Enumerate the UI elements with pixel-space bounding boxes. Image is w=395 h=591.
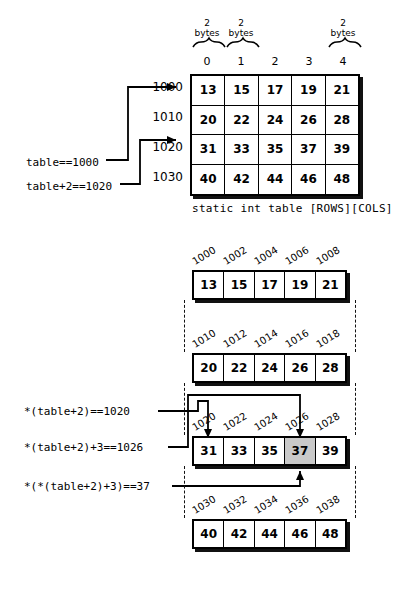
memory-address: 1010 [190,327,217,350]
grid-cell: 40 [192,165,225,195]
pointer-label-table: table==1000 [26,156,99,169]
dashed-guide-right [355,466,356,518]
grid-cell: 33 [225,135,258,165]
memory-address: 1002 [221,244,248,267]
table-row: 40 42 44 46 48 [192,165,358,195]
array-grid: 13 15 17 19 21 20 22 24 26 28 31 33 35 3… [190,74,360,196]
dashed-guide-left [184,466,185,518]
dashed-guide-left [184,383,185,435]
grid-cell: 26 [292,106,325,136]
expression-deref-table-plus-2: *(table+2)==1020 [24,405,130,418]
memory-cell: 28 [316,355,345,381]
memory-cell: 48 [316,521,345,547]
row-address-1010: 1010 [139,110,183,124]
row-address-1000: 1000 [139,80,183,94]
grid-cell: 31 [192,135,225,165]
memory-cell: 44 [255,521,285,547]
memory-address: 1008 [314,244,341,267]
memory-cell: 46 [285,521,315,547]
memory-address: 1006 [283,244,310,267]
memory-address: 1014 [252,327,279,350]
byte-label-col4: 2 bytes [321,18,365,38]
grid-cell: 20 [192,106,225,136]
byte-label-col1: 2 bytes [219,18,263,38]
grid-cell: 19 [292,76,325,106]
memory-cell: 22 [224,355,254,381]
grid-cell: 22 [225,106,258,136]
memory-address: 1020 [190,410,217,433]
grid-cell: 42 [225,165,258,195]
table-row: 31 33 35 37 39 [192,135,358,165]
memory-address: 1028 [314,410,341,433]
byte-label-col4-count: 2 [321,18,365,28]
memory-block-row0: 13 15 17 19 21 [192,270,347,300]
dashed-guide-left [184,300,185,352]
memory-block-row3: 40 42 44 46 48 [192,519,347,549]
memory-cell: 19 [285,272,315,298]
memory-cell: 21 [316,272,345,298]
memory-cell: 15 [224,272,254,298]
memory-cell: 17 [255,272,285,298]
byte-label-col1-unit: bytes [219,28,263,38]
memory-address: 1032 [221,493,248,516]
memory-cell: 26 [285,355,315,381]
grid-cell: 35 [259,135,292,165]
table-row: 13 15 17 19 21 [192,76,358,106]
grid-cell: 24 [259,106,292,136]
grid-cell: 48 [326,165,358,195]
figure-caption: static int table [ROWS][COLS] [192,202,393,215]
grid-cell: 21 [326,76,358,106]
column-index-3: 3 [292,55,326,68]
column-index-2: 2 [258,55,292,68]
dashed-guide-right [355,300,356,352]
column-index-0: 0 [190,55,224,68]
memory-address: 1038 [314,493,341,516]
expression-full-deref: *(*(table+2)+3)==37 [24,480,150,493]
memory-address: 1022 [221,410,248,433]
memory-address: 1030 [190,493,217,516]
memory-address: 1012 [221,327,248,350]
memory-address: 1000 [190,244,217,267]
byte-label-col4-unit: bytes [321,28,365,38]
memory-cell: 31 [194,438,224,464]
memory-address: 1004 [252,244,279,267]
memory-block-row1: 20 22 24 26 28 [192,353,347,383]
memory-address: 1026 [283,410,310,433]
row-address-1030: 1030 [139,170,183,184]
memory-cell: 33 [224,438,254,464]
grid-cell: 44 [259,165,292,195]
row-address-1020: 1020 [139,140,183,154]
figure-root: 2 bytes 2 bytes 2 bytes 0 1 2 3 4 1000 [0,0,395,591]
grid-cell: 37 [292,135,325,165]
table-row: 20 22 24 26 28 [192,106,358,136]
memory-cell: 40 [194,521,224,547]
expression-deref-table-plus-2-plus-3: *(table+2)+3==1026 [24,441,143,454]
memory-address: 1018 [314,327,341,350]
memory-cell: 24 [255,355,285,381]
memory-cell: 39 [316,438,345,464]
memory-block-row2: 31 33 35 37 39 [192,436,347,466]
grid-cell: 28 [326,106,358,136]
grid-cell: 39 [326,135,358,165]
memory-address: 1016 [283,327,310,350]
grid-cell: 15 [225,76,258,106]
memory-address: 1034 [252,493,279,516]
byte-label-col1-count: 2 [219,18,263,28]
grid-cell: 17 [259,76,292,106]
column-index-1: 1 [224,55,258,68]
memory-cell: 35 [255,438,285,464]
pointer-label-table-plus-2: table+2==1020 [26,180,112,193]
memory-cell: 13 [194,272,224,298]
grid-cell: 13 [192,76,225,106]
memory-cell-highlighted: 37 [285,438,315,464]
memory-address: 1024 [252,410,279,433]
memory-address: 1036 [283,493,310,516]
column-index-4: 4 [326,55,360,68]
dashed-guide-right [355,383,356,435]
memory-cell: 42 [224,521,254,547]
grid-cell: 46 [292,165,325,195]
memory-cell: 20 [194,355,224,381]
